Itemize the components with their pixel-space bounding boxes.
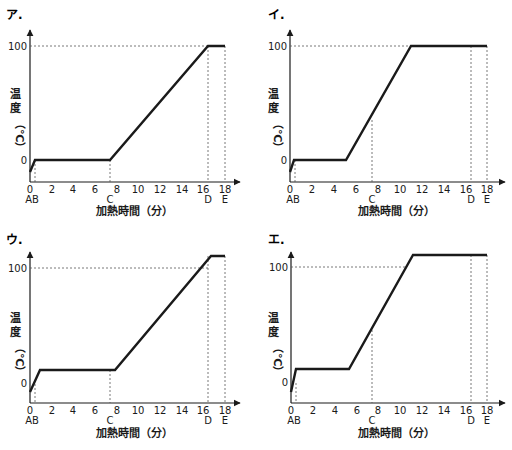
y-tick-100: 100 — [8, 263, 27, 274]
panel-label-a: ア. — [6, 8, 23, 22]
y-label-char-2: 度 — [10, 101, 22, 115]
x-axis-label: 加熱時間（分） — [95, 204, 173, 218]
y-label-char-1: 温 — [268, 87, 279, 101]
svg-text:8: 8 — [375, 184, 381, 195]
svg-text:10: 10 — [132, 405, 145, 416]
temperature-curve — [30, 46, 225, 172]
svg-text:6: 6 — [92, 405, 98, 416]
marker-c: C — [107, 194, 114, 205]
panel-label-i: イ. — [268, 8, 285, 22]
marker-d: D — [204, 415, 212, 426]
y-label-char-2: 度 — [10, 325, 22, 339]
chart-panel-e: エ. 100 0 温 度 （℃） 0 2 4 6 8 10 12 14 16 1… — [268, 233, 505, 440]
y-label-unit: （℃） — [13, 342, 26, 377]
svg-text:14: 14 — [438, 184, 451, 195]
svg-text:14: 14 — [438, 405, 451, 416]
svg-text:10: 10 — [132, 184, 145, 195]
svg-text:12: 12 — [416, 405, 429, 416]
svg-text:2: 2 — [49, 184, 55, 195]
y-label-char-2: 度 — [268, 325, 280, 339]
svg-text:12: 12 — [416, 184, 429, 195]
marker-d: D — [467, 415, 475, 426]
svg-text:4: 4 — [70, 184, 76, 195]
y-label-unit: （℃） — [271, 118, 284, 153]
x-tick-labels: 0 2 4 6 8 10 12 14 16 18 — [27, 405, 232, 416]
panel-label-u: ウ. — [6, 233, 23, 247]
marker-e: E — [222, 194, 228, 205]
marker-e: E — [484, 415, 490, 426]
svg-text:2: 2 — [49, 405, 55, 416]
marker-ab: AB — [25, 194, 39, 205]
svg-text:4: 4 — [70, 405, 76, 416]
y-label-unit: （℃） — [13, 118, 26, 153]
temperature-curve — [290, 46, 487, 172]
y-label-char-1: 温 — [10, 311, 21, 325]
svg-text:8: 8 — [114, 405, 120, 416]
svg-text:6: 6 — [92, 184, 98, 195]
y-tick-100: 100 — [8, 41, 27, 52]
svg-text:8: 8 — [114, 184, 120, 195]
svg-text:10: 10 — [394, 405, 407, 416]
chart-panel-u: ウ. 100 0 温 度 （℃） 0 2 4 6 8 10 12 14 16 1… — [6, 233, 240, 440]
y-label-char-1: 温 — [268, 311, 279, 325]
temperature-curve — [30, 256, 225, 392]
x-tick-labels: 0 2 4 6 8 10 12 14 16 18 — [27, 184, 232, 195]
y-tick-0: 0 — [21, 378, 27, 389]
svg-text:2: 2 — [309, 184, 315, 195]
panel-label-e: エ. — [268, 233, 285, 247]
svg-text:8: 8 — [375, 405, 381, 416]
guide-lines — [290, 46, 487, 182]
svg-text:4: 4 — [332, 405, 338, 416]
y-label-unit: （℃） — [271, 342, 284, 377]
y-tick-100: 100 — [268, 41, 287, 52]
y-tick-0: 0 — [281, 155, 287, 166]
marker-e: E — [484, 194, 490, 205]
chart-panel-i: イ. 100 0 温 度 （℃） 0 2 4 6 8 10 12 14 16 1… — [268, 8, 505, 218]
svg-text:10: 10 — [394, 184, 407, 195]
marker-e: E — [222, 415, 228, 426]
chart-panel-a: ア. 100 0 温 度 （℃） 0 2 4 6 8 10 12 14 — [6, 8, 240, 218]
guide-lines — [291, 255, 487, 403]
x-tick-labels: 0 2 4 6 8 10 12 14 16 18 — [288, 405, 494, 416]
x-tick-labels: 0 2 4 6 8 10 12 14 16 18 — [287, 184, 494, 195]
y-tick-0: 0 — [282, 377, 288, 388]
svg-text:6: 6 — [354, 405, 360, 416]
svg-text:4: 4 — [331, 184, 337, 195]
marker-d: D — [204, 194, 212, 205]
marker-c: C — [369, 194, 376, 205]
svg-text:12: 12 — [154, 184, 167, 195]
y-tick-100: 100 — [269, 262, 288, 273]
y-tick-0: 0 — [21, 155, 27, 166]
guide-lines — [30, 46, 225, 182]
svg-text:12: 12 — [154, 405, 167, 416]
guide-lines — [30, 256, 225, 403]
svg-text:6: 6 — [353, 184, 359, 195]
marker-c: C — [107, 415, 114, 426]
marker-c: C — [369, 415, 376, 426]
svg-text:2: 2 — [310, 405, 316, 416]
svg-text:14: 14 — [176, 405, 189, 416]
y-label-char-2: 度 — [268, 101, 280, 115]
marker-ab: AB — [286, 194, 300, 205]
x-axis-label: 加熱時間（分） — [357, 426, 435, 440]
marker-ab: AB — [287, 415, 301, 426]
temperature-curve — [291, 255, 487, 392]
x-axis-label: 加熱時間（分） — [95, 426, 173, 440]
marker-ab: AB — [25, 415, 39, 426]
x-axis-label: 加熱時間（分） — [357, 204, 435, 218]
y-label-char-1: 温 — [10, 87, 21, 101]
marker-d: D — [467, 194, 475, 205]
svg-text:14: 14 — [176, 184, 189, 195]
figure-root: ア. 100 0 温 度 （℃） 0 2 4 6 8 10 12 14 — [0, 0, 512, 450]
